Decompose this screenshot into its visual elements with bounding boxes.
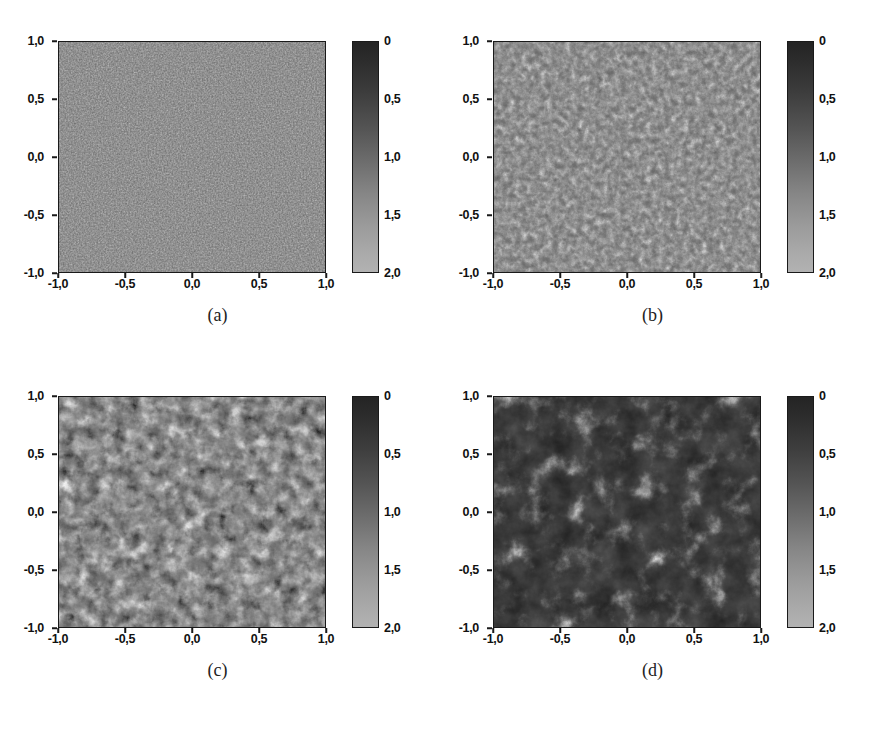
colorbar-tick-label: 1,5 bbox=[384, 208, 400, 222]
figure-grid: 1,0 0,5 0,0 -0,5 -1,0 bbox=[0, 0, 870, 745]
y-tick-mark bbox=[52, 453, 57, 455]
colorbar-tick-label: 2,0 bbox=[819, 621, 835, 635]
x-tick-label: 1,0 bbox=[753, 277, 769, 291]
density-field-b bbox=[493, 41, 761, 273]
colorbar-tick-label: 1,0 bbox=[384, 150, 400, 164]
x-tick-label: 0,5 bbox=[251, 277, 267, 291]
colorbar-tick-label: 0 bbox=[384, 34, 391, 48]
y-tick-mark bbox=[487, 40, 492, 42]
colorbar-ticklabels-c: 0 0,5 1,0 1,5 2,0 bbox=[384, 396, 430, 628]
x-tick-label: 1,0 bbox=[753, 632, 769, 646]
x-tick-label: 0,0 bbox=[619, 632, 635, 646]
colorbar-tick-label: 1,0 bbox=[819, 150, 835, 164]
y-axis-ticklabels-c: 1,0 0,5 0,0 -0,5 -1,0 bbox=[0, 396, 52, 628]
heatmap-plot-d bbox=[493, 396, 761, 628]
y-tick-mark bbox=[52, 40, 57, 42]
colorbar-ticklabels-d: 0 0,5 1,0 1,5 2,0 bbox=[819, 396, 865, 628]
heatmap-plot-a bbox=[58, 41, 326, 273]
colorbar-c bbox=[352, 396, 379, 628]
panel-d: 1,0 0,5 0,0 -0,5 -1,0 bbox=[435, 355, 870, 727]
y-tick-label: -0,5 bbox=[459, 208, 479, 222]
colorbar-ticklabels-a: 0 0,5 1,0 1,5 2,0 bbox=[384, 41, 430, 273]
density-field-c bbox=[58, 396, 326, 628]
panel-caption-a: (a) bbox=[0, 305, 435, 326]
y-tick-mark bbox=[52, 214, 57, 216]
y-tick-mark bbox=[52, 272, 57, 274]
panel-b: 1,0 0,5 0,0 -0,5 -1,0 bbox=[435, 0, 870, 372]
y-tick-label: 0,5 bbox=[463, 447, 479, 461]
colorbar-ticklabels-b: 0 0,5 1,0 1,5 2,0 bbox=[819, 41, 865, 273]
x-tick-label: -0,5 bbox=[115, 277, 135, 291]
panel-c: 1,0 0,5 0,0 -0,5 -1,0 bbox=[0, 355, 435, 727]
colorbar-tick-label: 2,0 bbox=[384, 621, 400, 635]
y-tick-mark bbox=[52, 395, 57, 397]
y-tick-mark bbox=[487, 395, 492, 397]
colorbar-tick-label: 0,5 bbox=[819, 92, 835, 106]
heatmap-plot-c bbox=[58, 396, 326, 628]
y-tick-label: 1,0 bbox=[28, 389, 44, 403]
y-tick-label: 1,0 bbox=[463, 389, 479, 403]
colorbar-tick-label: 2,0 bbox=[384, 266, 400, 280]
y-tick-label: 0,0 bbox=[463, 150, 479, 164]
y-tick-mark bbox=[487, 627, 492, 629]
x-tick-label: 0,5 bbox=[251, 632, 267, 646]
y-tick-label: -1,0 bbox=[459, 621, 479, 635]
colorbar-tick-label: 1,0 bbox=[819, 505, 835, 519]
y-tick-label: 1,0 bbox=[28, 34, 44, 48]
x-tick-label: -1,0 bbox=[483, 632, 503, 646]
x-tick-label: 1,0 bbox=[318, 632, 334, 646]
y-tick-label: -1,0 bbox=[24, 266, 44, 280]
x-tick-label: 0,5 bbox=[686, 277, 702, 291]
colorbar-tick-label: 0,5 bbox=[384, 447, 400, 461]
colorbar-tick-label: 1,5 bbox=[819, 208, 835, 222]
colorbar-tick-label: 0 bbox=[384, 389, 391, 403]
y-tick-label: 0,0 bbox=[463, 505, 479, 519]
colorbar-a bbox=[352, 41, 379, 273]
x-tick-label: -1,0 bbox=[48, 632, 68, 646]
y-tick-mark bbox=[487, 214, 492, 216]
y-tick-mark bbox=[487, 453, 492, 455]
colorbar-tick-label: 0,5 bbox=[384, 92, 400, 106]
y-tick-label: 1,0 bbox=[463, 34, 479, 48]
y-axis-ticklabels-d: 1,0 0,5 0,0 -0,5 -1,0 bbox=[435, 396, 487, 628]
y-tick-label: 0,5 bbox=[28, 92, 44, 106]
y-axis-ticklabels-a: 1,0 0,5 0,0 -0,5 -1,0 bbox=[0, 41, 52, 273]
y-tick-label: 0,5 bbox=[463, 92, 479, 106]
colorbar-tick-label: 0,5 bbox=[819, 447, 835, 461]
x-axis-ticklabels-a: -1,0 -0,5 0,0 0,5 1,0 bbox=[58, 277, 326, 297]
heatmap-plot-b bbox=[493, 41, 761, 273]
x-tick-label: -0,5 bbox=[115, 632, 135, 646]
y-tick-label: -0,5 bbox=[24, 208, 44, 222]
y-tick-mark bbox=[52, 156, 57, 158]
y-tick-label: 0,5 bbox=[28, 447, 44, 461]
y-tick-mark bbox=[52, 98, 57, 100]
y-tick-label: -1,0 bbox=[24, 621, 44, 635]
panel-a: 1,0 0,5 0,0 -0,5 -1,0 bbox=[0, 0, 435, 372]
x-tick-label: 0,0 bbox=[184, 632, 200, 646]
y-tick-mark bbox=[487, 156, 492, 158]
colorbar-tick-label: 2,0 bbox=[819, 266, 835, 280]
x-tick-label: -0,5 bbox=[550, 632, 570, 646]
x-tick-label: 1,0 bbox=[318, 277, 334, 291]
y-tick-mark bbox=[487, 272, 492, 274]
colorbar-d bbox=[787, 396, 814, 628]
colorbar-tick-label: 0 bbox=[819, 389, 826, 403]
y-tick-label: -0,5 bbox=[459, 563, 479, 577]
y-axis-ticklabels-b: 1,0 0,5 0,0 -0,5 -1,0 bbox=[435, 41, 487, 273]
y-tick-mark bbox=[52, 569, 57, 571]
x-tick-label: -1,0 bbox=[483, 277, 503, 291]
colorbar-b bbox=[787, 41, 814, 273]
y-tick-label: -0,5 bbox=[24, 563, 44, 577]
x-tick-label: 0,0 bbox=[184, 277, 200, 291]
x-tick-label: -1,0 bbox=[48, 277, 68, 291]
y-tick-mark bbox=[487, 569, 492, 571]
y-tick-label: 0,0 bbox=[28, 505, 44, 519]
colorbar-tick-label: 1,5 bbox=[819, 563, 835, 577]
y-tick-mark bbox=[487, 511, 492, 513]
x-axis-ticklabels-d: -1,0 -0,5 0,0 0,5 1,0 bbox=[493, 632, 761, 652]
x-axis-ticklabels-b: -1,0 -0,5 0,0 0,5 1,0 bbox=[493, 277, 761, 297]
x-tick-label: -0,5 bbox=[550, 277, 570, 291]
panel-caption-b: (b) bbox=[435, 305, 870, 326]
x-tick-label: 0,5 bbox=[686, 632, 702, 646]
panel-caption-c: (c) bbox=[0, 660, 435, 681]
